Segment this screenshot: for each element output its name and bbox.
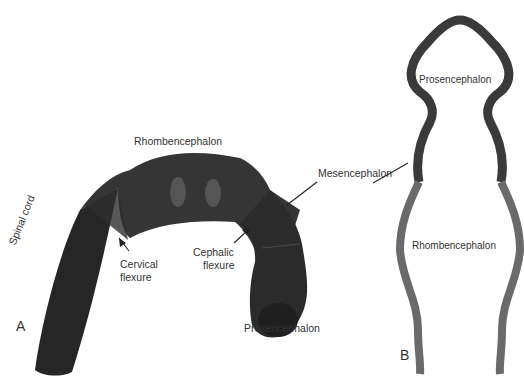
label-cephalic-flexure-2: flexure bbox=[203, 259, 235, 271]
panel-letter-a: A bbox=[16, 318, 25, 334]
neural-tube-figure: Rhombencephalon Mesencephalon Spinal cor… bbox=[0, 0, 524, 377]
label-mesencephalon: Mesencephalon bbox=[318, 167, 392, 179]
panel-a-illustration bbox=[35, 153, 307, 376]
label-cervical-flexure-1: Cervical bbox=[120, 258, 158, 270]
label-prosencephalon-a: Prosencephalon bbox=[244, 322, 320, 334]
label-cephalic-flexure-1: Cephalic bbox=[193, 246, 234, 258]
label-rhombencephalon-b: Rhombencephalon bbox=[412, 240, 496, 252]
label-cervical-flexure-2: flexure bbox=[120, 271, 152, 283]
label-rhombencephalon-a: Rhombencephalon bbox=[134, 135, 222, 147]
panel-letter-b: B bbox=[400, 347, 409, 363]
figure-graphics bbox=[0, 0, 524, 377]
label-prosencephalon-b: Prosencephalon bbox=[419, 74, 491, 86]
